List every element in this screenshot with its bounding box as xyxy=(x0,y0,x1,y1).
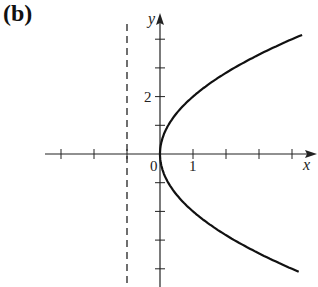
x-axis-label: x xyxy=(302,156,310,173)
x-tick-label: 1 xyxy=(189,158,197,174)
parabola-curve xyxy=(160,35,302,272)
series xyxy=(127,24,302,287)
parabola-chart: 012xy xyxy=(0,0,318,287)
axis-labels: 012xy xyxy=(144,10,310,174)
y-axis-label: y xyxy=(146,10,156,28)
x-tick-label: 0 xyxy=(150,158,158,174)
axes xyxy=(45,13,317,287)
y-tick-label: 2 xyxy=(144,89,152,105)
